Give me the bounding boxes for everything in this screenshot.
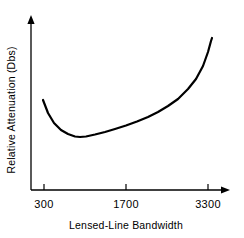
x-axis-title: Lensed-Line Bandwidth [69,219,183,231]
y-axis-title: Relative Attenuation (Dbs) [5,46,17,173]
x-tick-label: 3300 [195,198,221,210]
line-chart: 300 1700 3300 Lensed-Line Bandwidth Rela… [0,0,244,238]
chart-figure: 300 1700 3300 Lensed-Line Bandwidth Rela… [0,0,244,238]
x-tick-label: 1700 [113,198,139,210]
x-tick-label: 300 [34,198,53,210]
